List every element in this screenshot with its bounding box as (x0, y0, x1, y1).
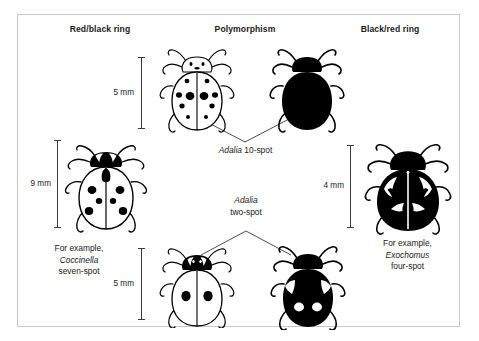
scale-bar-top-middle (141, 57, 142, 129)
caption-right-line1: For example, (355, 238, 460, 250)
beetle-adalia-10-spot-pale (157, 44, 237, 134)
scale-label-right: 4 mm (307, 181, 344, 190)
beetle-coccinella-seven-spot (62, 137, 150, 235)
caption-left-line3: seven-spot (24, 266, 134, 278)
beetle-adalia-10-spot-melanic (267, 44, 347, 134)
scale-bar-right (350, 145, 351, 228)
scale-label-bottom-middle: 5 mm (98, 279, 134, 288)
caption-right-species: Exochomus (355, 250, 460, 262)
ladybird-polymorphism-figure: Red/black ring Polymorphism Black/red ri… (0, 0, 479, 341)
caption-left-example: For example, Coccinella seven-spot (24, 243, 134, 278)
caption-left-line1: For example, (24, 243, 134, 255)
beetle-exochomus-four-spot (362, 141, 454, 235)
genus-name-adalia-two: Adalia (198, 195, 294, 207)
beetle-adalia-two-spot-pale (157, 244, 237, 328)
morph-label-adalia-10-spot: Adalia 10-spot (188, 145, 303, 157)
column-header-right: Black/red ring (330, 24, 450, 34)
genus-name-adalia-10: Adalia (219, 145, 242, 155)
caption-right-line3: four-spot (355, 261, 460, 273)
column-header-middle: Polymorphism (185, 24, 305, 34)
scale-bar-bottom-middle (141, 248, 142, 320)
scale-bar-left (57, 140, 58, 228)
beetle-adalia-two-spot-melanic (268, 242, 348, 330)
morph-suffix-10-spot: 10-spot (242, 145, 272, 155)
column-header-left: Red/black ring (40, 24, 160, 34)
caption-right-example: For example, Exochomus four-spot (355, 238, 460, 273)
scale-label-top-middle: 5 mm (98, 88, 134, 97)
morph-label-adalia-two-spot: Adalia two-spot (198, 195, 294, 218)
caption-left-species: Coccinella (24, 255, 134, 267)
scale-label-left: 9 mm (13, 179, 51, 188)
morph-suffix-two-spot: two-spot (198, 207, 294, 219)
